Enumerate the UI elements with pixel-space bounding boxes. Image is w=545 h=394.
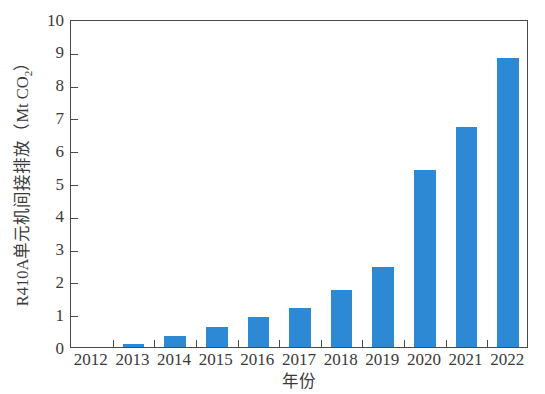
x-axis-tick-label: 2017 xyxy=(278,350,320,370)
bar xyxy=(497,58,519,347)
x-axis-tick-label: 2015 xyxy=(195,350,237,370)
x-axis-tick-label: 2018 xyxy=(320,350,362,370)
bar xyxy=(123,344,145,347)
bar xyxy=(206,327,228,347)
y-axis-tick-label: 2 xyxy=(28,274,64,291)
x-axis-tick-label: 2022 xyxy=(486,350,528,370)
y-axis-tick-label: 6 xyxy=(28,143,64,160)
y-axis-tick-label: 0 xyxy=(28,340,64,357)
x-axis-tick-label: 2019 xyxy=(361,350,403,370)
x-axis-tick-label: 2020 xyxy=(403,350,445,370)
y-axis-tick-label: 9 xyxy=(28,44,64,61)
bar xyxy=(248,317,270,347)
y-axis-tick-label: 7 xyxy=(28,110,64,127)
y-axis-tick-label: 4 xyxy=(28,208,64,225)
bar xyxy=(372,267,394,347)
bar xyxy=(414,170,436,347)
y-axis-tick-label: 1 xyxy=(28,307,64,324)
y-axis-tick-label: 5 xyxy=(28,176,64,193)
y-axis-tick-labels: 012345678910 xyxy=(28,0,64,394)
x-axis-tick-labels: 2012201320142015201620172018201920202021… xyxy=(70,350,528,372)
bar xyxy=(331,290,353,347)
x-axis-tick-label: 2013 xyxy=(112,350,154,370)
bar xyxy=(164,336,186,347)
x-axis-tick-label: 2016 xyxy=(237,350,279,370)
x-axis-tick-label: 2012 xyxy=(70,350,112,370)
y-axis-tick-label: 10 xyxy=(28,12,64,29)
x-axis-tick-label: 2014 xyxy=(153,350,195,370)
bar xyxy=(289,308,311,347)
bar-chart-figure: R410A单元机间接排放（Mt CO2） 012345678910 201220… xyxy=(0,0,545,394)
y-axis-tick-label: 3 xyxy=(28,241,64,258)
y-axis-tick-label: 8 xyxy=(28,77,64,94)
x-axis-title: 年份 xyxy=(70,372,528,392)
x-axis-tick-label: 2021 xyxy=(445,350,487,370)
bars-group xyxy=(71,21,527,347)
plot-area xyxy=(70,20,528,348)
bar xyxy=(456,127,478,347)
